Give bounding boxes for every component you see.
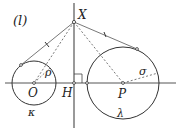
label-P: P xyxy=(118,88,126,100)
tangent-point-left xyxy=(20,64,23,67)
tick-right xyxy=(104,32,106,37)
tangent-left xyxy=(21,22,74,65)
point-H xyxy=(73,82,76,85)
right-angle-mark xyxy=(74,74,82,83)
label-rho: ρ xyxy=(45,67,51,78)
label-O: O xyxy=(28,87,38,99)
point-intersect xyxy=(86,82,89,85)
diagram: (l) X O H P ρ σ κ λ xyxy=(0,0,186,134)
label-sigma: σ xyxy=(139,66,147,77)
point-P xyxy=(122,82,125,85)
point-O xyxy=(33,82,36,85)
label-X: X xyxy=(78,9,87,21)
label-kappa: κ xyxy=(28,107,35,118)
point-X xyxy=(72,20,75,23)
label-lambda: λ xyxy=(117,108,124,119)
panel-label: (l) xyxy=(13,14,27,27)
tangent-point-right xyxy=(136,48,139,51)
label-H: H xyxy=(62,87,72,99)
